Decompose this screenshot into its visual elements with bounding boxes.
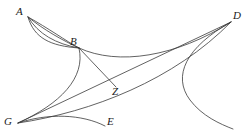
vertex-label-a: A — [16, 6, 23, 17]
vertex-label-d: D — [233, 10, 241, 21]
curve-d-to-tail — [182, 22, 233, 129]
curve-group — [18, 17, 233, 129]
curve-b-to-d — [79, 22, 231, 57]
line-b-to-z — [79, 48, 116, 87]
line-g-to-d — [18, 22, 231, 123]
vertex-label-e: E — [107, 116, 114, 127]
figure-canvas — [0, 0, 252, 138]
geometry-figure: ABDZGE — [0, 0, 252, 138]
vertex-label-b: B — [70, 36, 77, 47]
vertex-label-g: G — [4, 116, 12, 127]
vertex-label-z: Z — [112, 86, 118, 97]
